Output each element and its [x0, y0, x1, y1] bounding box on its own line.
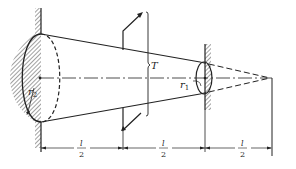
torque-label: T — [151, 60, 159, 71]
svg-text:2: 2 — [240, 150, 245, 159]
tapered-shaft-diagram: r2 T r1 l 2 l — [0, 0, 296, 169]
svg-text:l: l — [80, 139, 83, 148]
center-point-left — [39, 77, 42, 80]
dimension-label-1: l 2 — [74, 139, 90, 159]
svg-text:l: l — [162, 139, 165, 148]
svg-text:2: 2 — [161, 150, 166, 159]
left-wall-support — [10, 8, 41, 152]
svg-text:l: l — [241, 139, 244, 148]
torque-arrows — [121, 12, 150, 150]
svg-text:2: 2 — [79, 150, 84, 159]
dimension-label-2: l 2 — [156, 139, 172, 159]
center-point-right — [204, 77, 207, 80]
r1-label: r1 — [180, 79, 189, 92]
dimension-label-3: l 2 — [235, 139, 251, 159]
right-wall-support — [205, 44, 211, 152]
